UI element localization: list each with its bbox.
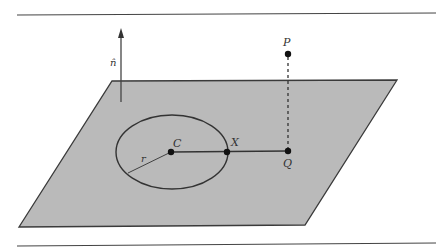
point-q	[285, 148, 291, 154]
point-x	[224, 149, 230, 155]
point-p	[285, 51, 291, 57]
label-c: C	[173, 137, 182, 150]
top-rule	[17, 13, 436, 15]
plane-circle-projection-diagram: n̂ r C X Q P	[0, 0, 436, 251]
label-q: Q	[283, 157, 292, 170]
normal-vector-label: n̂	[110, 57, 116, 68]
plane	[19, 80, 397, 227]
normal-vector-arrowhead-icon	[118, 28, 124, 38]
bottom-rule	[17, 243, 436, 246]
label-x: X	[230, 136, 240, 149]
label-p: P	[282, 36, 291, 49]
